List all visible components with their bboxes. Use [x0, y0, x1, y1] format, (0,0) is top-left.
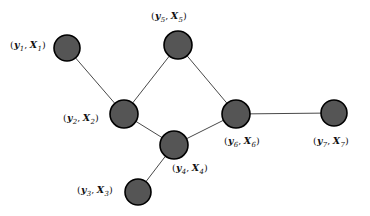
- node-label-1: (y1,X1): [10, 40, 46, 53]
- label-close-paren: ): [109, 184, 113, 195]
- graph-figure: (y1,X1)(y2,X2)(y3,X3)(y4,X4)(y5,X5)(y6,X…: [0, 0, 370, 216]
- label-close-paren: ): [345, 135, 349, 146]
- node-label-7: (y7,X7): [313, 136, 349, 149]
- label-close-paren: ): [183, 10, 187, 21]
- graph-canvas: [0, 0, 370, 216]
- graph-node-5: [164, 31, 192, 59]
- node-label-4: (y4,X4): [172, 163, 208, 176]
- label-close-paren: ): [256, 135, 260, 146]
- graph-edge: [186, 55, 227, 104]
- graph-node-7: [321, 100, 347, 126]
- node-label-5: (y5,X5): [151, 11, 187, 24]
- label-close-paren: ): [95, 112, 99, 123]
- graph-node-4: [160, 131, 188, 159]
- graph-edge: [132, 55, 170, 104]
- graph-edge: [249, 113, 322, 114]
- graph-edge: [135, 121, 163, 138]
- graph-node-3: [125, 179, 151, 205]
- node-label-2: (y2,X2): [63, 113, 99, 126]
- label-close-paren: ): [42, 39, 46, 50]
- graph-edge: [145, 155, 166, 182]
- node-label-6: (y6,X6): [224, 136, 260, 149]
- graph-node-1: [54, 35, 80, 61]
- graph-node-6: [222, 100, 250, 128]
- graph-node-2: [110, 100, 138, 128]
- graph-edge: [75, 57, 116, 104]
- label-close-paren: ): [204, 162, 208, 173]
- node-label-3: (y3,X3): [77, 185, 113, 198]
- graph-edge: [186, 120, 225, 139]
